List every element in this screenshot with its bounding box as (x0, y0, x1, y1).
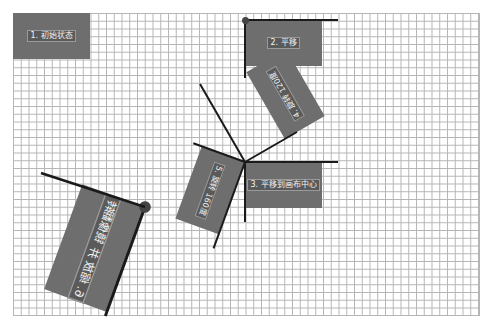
step-6-extra-axis (13, 13, 479, 315)
grid-canvas: 1. 初始状态 2. 平移 3. 平移到画布中心 4. 旋转 120度 5. 旋… (13, 13, 480, 316)
